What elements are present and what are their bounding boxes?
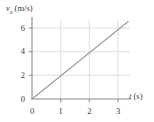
x-axis-units: (s) (134, 91, 143, 101)
xtick-label-2: 2 (84, 107, 94, 116)
chart-background (0, 0, 154, 122)
y-axis-subscript: x (10, 9, 13, 15)
ytick-label-2: 2 (15, 71, 25, 80)
y-axis-units: (m/s) (15, 3, 33, 13)
xtick-label-3: 3 (113, 107, 123, 116)
ytick-label-0: 0 (15, 95, 25, 104)
xtick-label-0: 0 (27, 107, 37, 116)
xtick-label-1: 1 (56, 107, 66, 116)
y-axis-label: vx (m/s) (6, 4, 33, 15)
plot-canvas (0, 0, 154, 122)
velocity-time-chart: vx (m/s) t (s) 6 4 2 0 0 1 2 3 (0, 0, 154, 122)
x-axis-symbol: t (129, 91, 131, 101)
ytick-label-6: 6 (15, 24, 25, 33)
x-axis-label: t (s) (129, 92, 142, 101)
ytick-label-4: 4 (15, 47, 25, 56)
